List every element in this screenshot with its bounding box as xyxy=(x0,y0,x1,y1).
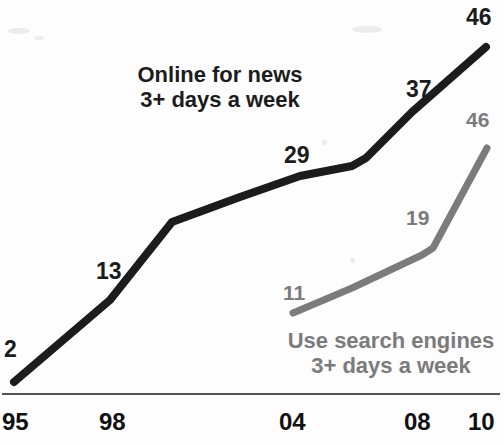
data-label-dark-13: 13 xyxy=(96,258,122,284)
data-label-gray-46: 46 xyxy=(466,108,489,132)
series-annotation-use-search-engines: Use search engines 3+ days a week xyxy=(280,328,502,379)
x-tick-label-08: 08 xyxy=(404,408,431,436)
chart-container: 2 13 29 37 46 11 19 46 Online for news 3… xyxy=(0,0,504,445)
series-annotation-line-2: 3+ days a week xyxy=(120,87,320,112)
series-annotation-online-for-news: Online for news 3+ days a week xyxy=(120,62,320,113)
series-annotation-line-1: Online for news xyxy=(120,62,320,87)
data-label-dark-2: 2 xyxy=(4,336,17,362)
data-label-dark-29: 29 xyxy=(284,142,310,168)
series-annotation-line-1: Use search engines xyxy=(280,328,502,353)
data-label-gray-11: 11 xyxy=(283,281,305,305)
series-annotation-line-2: 3+ days a week xyxy=(280,353,502,378)
x-tick-label-98: 98 xyxy=(99,408,126,436)
x-tick-label-95: 95 xyxy=(2,408,29,436)
data-label-dark-46: 46 xyxy=(466,4,492,30)
data-label-dark-37: 37 xyxy=(406,76,432,102)
x-tick-label-10: 10 xyxy=(468,408,495,436)
x-tick-label-04: 04 xyxy=(279,408,306,436)
data-label-gray-19: 19 xyxy=(406,206,429,230)
